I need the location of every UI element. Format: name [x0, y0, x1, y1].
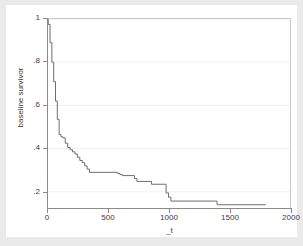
x-axis-title: _t — [47, 226, 292, 235]
chart-figure: 0500100015002000 .2.4.6.81 _t baseline s… — [0, 0, 303, 246]
gridlines — [47, 19, 290, 192]
x-tick-label: 500 — [91, 213, 125, 223]
x-tick-label: 1500 — [213, 213, 247, 223]
y-tick-mark — [43, 192, 47, 193]
y-tick-label: .6 — [24, 101, 40, 109]
y-tick-label: 1 — [24, 14, 40, 22]
y-tick-mark — [43, 148, 47, 149]
y-tick-label: .4 — [24, 144, 40, 152]
y-axis-line — [47, 18, 48, 209]
x-tick-label: 2000 — [274, 213, 303, 223]
plot-region — [47, 18, 291, 208]
y-tick-label: .8 — [24, 57, 40, 65]
y-tick-label: .2 — [24, 188, 40, 196]
y-tick-mark — [43, 18, 47, 19]
baseline-survivor-curve — [47, 19, 266, 205]
y-axis-title: baseline survivor — [16, 38, 25, 158]
x-tick-label: 1000 — [152, 213, 186, 223]
graph-canvas: 0500100015002000 .2.4.6.81 _t baseline s… — [6, 5, 297, 237]
y-tick-mark — [43, 61, 47, 62]
survivor-curve-svg — [47, 19, 290, 208]
y-tick-mark — [43, 105, 47, 106]
x-tick-label: 0 — [30, 213, 64, 223]
